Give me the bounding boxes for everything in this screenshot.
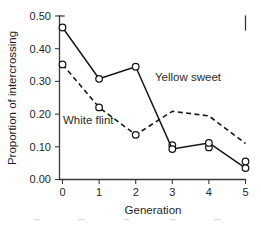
white-flint-point-gen2 xyxy=(132,132,139,139)
axis-spine xyxy=(60,16,246,180)
x-tick-label-0: 0 xyxy=(59,186,65,198)
white-flint-point-gen0 xyxy=(59,61,66,68)
x-tick-label-2: 2 xyxy=(133,186,139,198)
series-annotation-yellow-sweet: Yellow sweet xyxy=(155,71,222,83)
y-tick-label-1: 0.10 xyxy=(30,141,51,153)
x-tick-label-3: 3 xyxy=(169,186,175,198)
x-tick-label-1: 1 xyxy=(96,186,102,198)
x-tick-label-5: 5 xyxy=(242,186,248,198)
white-flint-point-gen5 xyxy=(242,158,249,165)
yellow-sweet-point-gen0 xyxy=(59,24,66,31)
white-flint-point-gen1 xyxy=(96,104,103,111)
yellow-sweet-point-gen4 xyxy=(206,140,213,147)
yellow-sweet-point-gen3 xyxy=(169,146,176,153)
y-tick-label-2: 0.20 xyxy=(30,108,51,120)
x-axis-ticks: 0 1 2 3 4 5 xyxy=(59,180,248,199)
y-tick-label-0: 0.00 xyxy=(30,173,51,185)
chart-figure: 0.00 0.10 0.20 0.30 0.40 0.50 0 1 2 3 4 … xyxy=(0,0,261,227)
y-tick-label-5: 0.50 xyxy=(30,10,51,22)
x-axis-title: Generation xyxy=(125,204,182,216)
series-yellow-sweet xyxy=(59,24,249,171)
yellow-sweet-point-gen1 xyxy=(96,76,103,83)
line-chart-canvas: 0.00 0.10 0.20 0.30 0.40 0.50 0 1 2 3 4 … xyxy=(0,0,261,227)
y-tick-label-3: 0.30 xyxy=(30,75,51,87)
y-axis-title: Proportion of intercrossing xyxy=(6,31,18,165)
y-tick-label-4: 0.40 xyxy=(30,43,51,55)
y-axis-ticks: 0.00 0.10 0.20 0.30 0.40 0.50 xyxy=(30,10,60,186)
yellow-sweet-point-gen5 xyxy=(242,165,249,172)
scan-artifacts xyxy=(34,219,221,220)
chart-axes xyxy=(60,16,246,180)
series-annotation-white-flint: White flint xyxy=(63,114,114,126)
yellow-sweet-point-gen2 xyxy=(132,63,139,70)
x-tick-label-4: 4 xyxy=(206,186,212,198)
